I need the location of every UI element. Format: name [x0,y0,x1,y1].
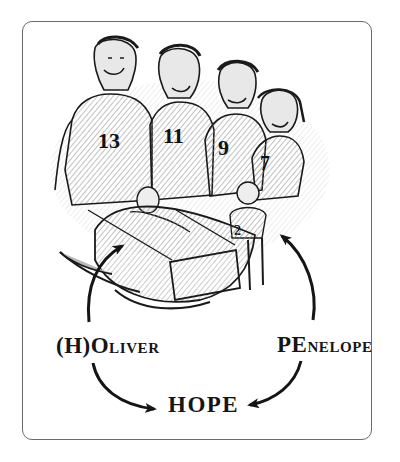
label-oliver: (H)OLIVER [56,333,160,359]
jersey-11: 11 [163,123,184,148]
jersey-9: 9 [218,135,229,160]
arrow-oliver-to-hope-icon [93,363,154,409]
arrow-penelope-to-hope-icon [250,361,301,405]
jersey-13: 13 [98,128,120,153]
oliver-prefix: (H)O [56,333,109,358]
penelope-rest: NELOPE [307,339,372,355]
penelope-prefix: PE [277,332,307,357]
arrow-penelope-to-cradle-icon [282,236,314,320]
child-13-figure [55,37,152,205]
jersey-7: 7 [260,152,270,174]
label-hope: HOPE [168,392,239,418]
label-penelope: PENELOPE [277,332,373,358]
oliver-rest: LIVER [109,340,160,356]
